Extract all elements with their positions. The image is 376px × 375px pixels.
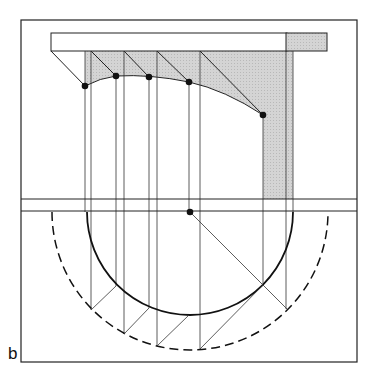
point-2 — [113, 73, 120, 80]
center-point — [187, 209, 194, 216]
plan-diagonals — [91, 212, 287, 349]
projection-diagram — [0, 0, 376, 375]
top-bar — [51, 33, 287, 51]
top-bar-shaded-end — [286, 33, 327, 51]
point-4 — [186, 79, 193, 86]
point-5 — [260, 112, 267, 119]
outer-dashed-semicircle — [52, 212, 328, 350]
figure-label: b — [8, 344, 17, 364]
point-1 — [82, 83, 89, 90]
bracket-diagonal — [51, 51, 85, 86]
point-3 — [146, 74, 153, 81]
inner-semicircle — [87, 212, 293, 315]
